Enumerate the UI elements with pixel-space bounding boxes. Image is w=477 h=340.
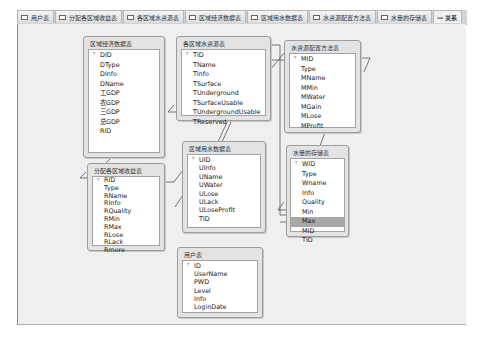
table-water-resource[interactable]: 各区域水资源表 ᵀTID TName TInfo TSurface TUnder…: [176, 36, 271, 121]
field[interactable]: UserName: [183, 270, 257, 278]
field[interactable]: RID: [89, 127, 159, 137]
field[interactable]: DName: [89, 80, 159, 90]
key-icon: ᵀ: [93, 52, 98, 58]
field[interactable]: RLack: [93, 239, 159, 247]
key-icon: ᵀ: [186, 52, 191, 58]
field[interactable]: RMin: [93, 216, 159, 224]
field[interactable]: 总GDP: [89, 118, 159, 128]
table-storage[interactable]: 水量的存储表 ᵀWID Type Wname Info Quality Min …: [286, 145, 349, 237]
table-title: 区域用水数据表: [183, 142, 265, 153]
key-icon: ᵀ: [97, 178, 102, 184]
table-title: 分配各区域收益表: [88, 164, 164, 175]
table-usage[interactable]: 区域用水数据表 ᵀUID UInfo UName UWater ULose UL…: [182, 141, 266, 233]
key-icon: ᵀ: [187, 263, 192, 269]
field[interactable]: TID: [188, 215, 260, 223]
field[interactable]: Type: [291, 170, 344, 180]
field-selected[interactable]: Max: [291, 217, 344, 227]
table-users[interactable]: 用户表 ᵀID UserName PWD Level Info LoginDat…: [177, 247, 263, 318]
field-list: ᵀDID DType DInfo DName 工GDP 农GDP 三GDP 总G…: [88, 49, 160, 153]
field-list: ᵀID UserName PWD Level Info LoginDate: [182, 260, 258, 313]
field-primary-key[interactable]: ᵀMID: [290, 55, 355, 65]
field[interactable]: PWD: [183, 278, 257, 286]
field[interactable]: RName: [93, 193, 159, 201]
table-title: 各区域水资源表: [177, 37, 270, 48]
key-icon: ᵀ: [192, 157, 197, 163]
table-title: 水资源配置方法表: [285, 41, 360, 52]
field-primary-key[interactable]: ᵀDID: [89, 51, 159, 61]
field[interactable]: TReserved: [182, 118, 265, 128]
field[interactable]: TInfo: [182, 70, 265, 80]
field[interactable]: Info: [291, 189, 344, 199]
field[interactable]: RLose: [93, 232, 159, 240]
field[interactable]: RMax: [93, 224, 159, 232]
field[interactable]: Info: [183, 295, 257, 303]
field-list: ᵀMID Type MName MMin MWater MGain MLose …: [289, 53, 356, 128]
field[interactable]: Level: [183, 287, 257, 295]
field[interactable]: MMin: [290, 84, 355, 94]
field[interactable]: TSurfaceUsable: [182, 99, 265, 109]
field[interactable]: 农GDP: [89, 99, 159, 109]
field[interactable]: DType: [89, 61, 159, 71]
field[interactable]: MLose: [290, 112, 355, 122]
table-allocation-method[interactable]: 水资源配置方法表 ᵀMID Type MName MMin MWater MGa…: [284, 40, 361, 133]
field[interactable]: 工GDP: [89, 89, 159, 99]
field[interactable]: TSurface: [182, 80, 265, 90]
field[interactable]: UWater: [188, 181, 260, 189]
field[interactable]: MWater: [290, 93, 355, 103]
field-list: ᵀUID UInfo UName UWater ULose ULack ULos…: [187, 154, 261, 228]
field[interactable]: ULack: [188, 198, 260, 206]
field-primary-key[interactable]: ᵀTID: [182, 51, 265, 61]
table-title: 用户表: [178, 248, 262, 259]
field[interactable]: TUnderground: [182, 89, 265, 99]
field[interactable]: Min: [291, 208, 344, 218]
field[interactable]: MName: [290, 74, 355, 84]
field-list: ᵀRID Type RName RInfo RQuality RMin RMax…: [92, 176, 160, 246]
field[interactable]: UInfo: [188, 164, 260, 172]
field-primary-key[interactable]: ᵀUID: [188, 156, 260, 164]
field[interactable]: Wname: [291, 179, 344, 189]
field-primary-key[interactable]: ᵀWID: [291, 160, 344, 170]
table-benefit[interactable]: 分配各区域收益表 ᵀRID Type RName RInfo RQuality …: [87, 163, 165, 251]
key-icon: ᵀ: [295, 161, 300, 167]
field[interactable]: TID: [291, 236, 344, 246]
field[interactable]: LoginDate: [183, 303, 257, 311]
field-list: ᵀTID TName TInfo TSurface TUnderground T…: [181, 49, 266, 116]
key-icon: ᵀ: [294, 56, 299, 62]
field[interactable]: Quality: [291, 198, 344, 208]
table-title: 区域经济数据表: [84, 37, 164, 48]
field[interactable]: DInfo: [89, 70, 159, 80]
field[interactable]: RQuality: [93, 208, 159, 216]
table-title: 水量的存储表: [287, 146, 348, 157]
field[interactable]: Rmore: [93, 247, 159, 255]
field-list: ᵀWID Type Wname Info Quality Min Max MID…: [290, 158, 345, 232]
field-primary-key[interactable]: ᵀRID: [93, 177, 159, 185]
field[interactable]: MID: [291, 227, 344, 237]
field[interactable]: MProfit: [290, 122, 355, 132]
field[interactable]: MGain: [290, 103, 355, 113]
field[interactable]: UName: [188, 173, 260, 181]
field[interactable]: TName: [182, 61, 265, 71]
table-economy[interactable]: 区域经济数据表 ᵀDID DType DInfo DName 工GDP 农GDP…: [83, 36, 165, 158]
field[interactable]: ULose: [188, 190, 260, 198]
field[interactable]: Type: [290, 65, 355, 75]
field[interactable]: 三GDP: [89, 108, 159, 118]
field-primary-key[interactable]: ᵀID: [183, 262, 257, 270]
field[interactable]: ULoseProfit: [188, 206, 260, 214]
field[interactable]: TUndergroundUsable: [182, 108, 265, 118]
